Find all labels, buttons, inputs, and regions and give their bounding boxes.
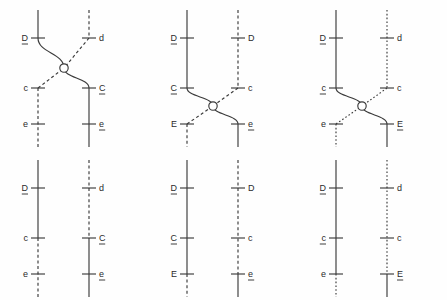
allele-label: D [320, 183, 327, 193]
allele-label: D [248, 33, 255, 43]
xover-left-upper-to-node [38, 38, 64, 68]
allele-label: c [24, 233, 29, 243]
allele-label: d [99, 33, 104, 43]
allele-label: D [171, 33, 178, 43]
crossover-node [60, 64, 68, 72]
resolved-product-switch-at-E: DDCcEe [149, 150, 298, 300]
allele-label: D [171, 183, 178, 193]
allele-label: e [23, 269, 28, 279]
xover-right-upper-to-node [64, 38, 89, 68]
crossover-between-c-and-E: DdcceE [298, 0, 447, 150]
crossover-between-C-and-E: DDCcEe [149, 0, 298, 150]
crossover-node [209, 102, 217, 110]
allele-label: e [99, 119, 104, 129]
allele-label: E [171, 269, 177, 279]
allele-label: e [248, 269, 253, 279]
xover-node-to-left-lower [38, 68, 64, 88]
allele-label: c [322, 233, 327, 243]
allele-label: d [397, 183, 402, 193]
allele-label: e [321, 269, 326, 279]
allele-label: d [99, 183, 104, 193]
resolved-product-switch-at-C: DdcCee [0, 150, 149, 300]
crossover-between-D-and-C: DdcCee [0, 0, 149, 150]
allele-label: E [397, 269, 403, 279]
allele-label: E [397, 119, 403, 129]
allele-label: D [22, 183, 29, 193]
allele-label: C [171, 233, 178, 243]
allele-label: C [99, 83, 106, 93]
allele-label: c [322, 83, 327, 93]
allele-label: c [24, 83, 29, 93]
allele-label: c [397, 233, 402, 243]
allele-label: D [248, 183, 255, 193]
allele-label: e [321, 119, 326, 129]
allele-label: c [248, 83, 253, 93]
allele-label: c [397, 83, 402, 93]
allele-label: d [397, 33, 402, 43]
crossing-over-figure: DdcCeeDDCcEeDdcceEDdcCeeDDCcEeDdcceE [0, 0, 447, 300]
allele-label: c [248, 233, 253, 243]
allele-label: E [171, 119, 177, 129]
allele-label: e [23, 119, 28, 129]
resolved-product-switch-at-E-variant: DdcceE [298, 150, 447, 300]
allele-label: D [320, 33, 327, 43]
crossover-node [358, 102, 366, 110]
allele-label: e [99, 269, 104, 279]
allele-label: C [99, 233, 106, 243]
allele-label: C [171, 83, 178, 93]
allele-label: D [22, 33, 29, 43]
allele-label: e [248, 119, 253, 129]
xover-node-to-right-lower [64, 68, 89, 88]
